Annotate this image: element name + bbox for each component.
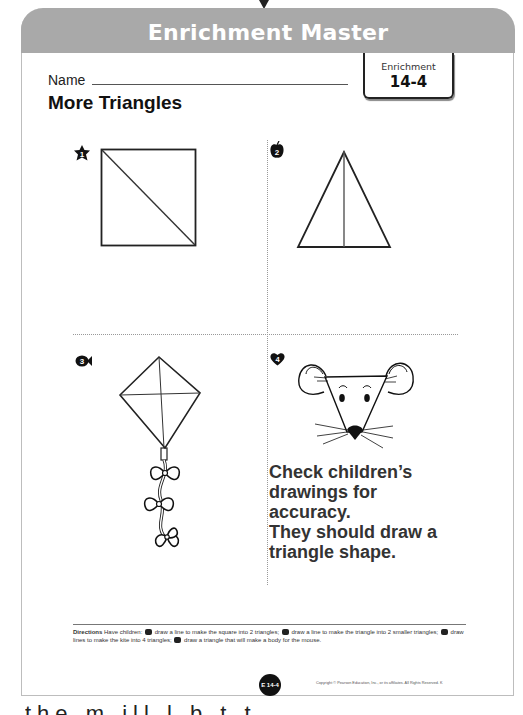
heart-number-icon: 4: [270, 352, 285, 366]
directions-part-1: Have children:: [104, 629, 142, 635]
vertical-divider: [267, 140, 268, 585]
directions-part-3: draw a line to make the triangle into 2 …: [291, 629, 438, 635]
answer-note: Check children’s drawings for accuracy. …: [269, 462, 499, 562]
lesson-badge: Enrichment 14-4: [363, 53, 454, 99]
directions-part-2: draw a line to make the square into 2 tr…: [155, 629, 279, 635]
badge-label: Enrichment: [365, 61, 452, 72]
directions-text: Directions Have children: draw a line to…: [73, 624, 466, 644]
fish-number-icon: [441, 629, 448, 635]
directions-label: Directions: [73, 629, 102, 635]
answer-line-2: drawings for: [269, 482, 499, 502]
svg-text:2: 2: [275, 148, 280, 157]
square-with-diagonal[interactable]: [100, 148, 198, 248]
cutoff-caption-text: the m ill l b t t: [25, 703, 257, 715]
kite-with-bows[interactable]: [115, 355, 205, 555]
header-bar: Enrichment Master: [21, 8, 515, 53]
answer-line-5: triangle shape.: [269, 542, 499, 562]
page-number-badge: E 14-4: [259, 674, 281, 696]
fish-number-icon: 3: [75, 355, 93, 367]
mouse-head[interactable]: [297, 352, 417, 452]
answer-line-3: accuracy.: [269, 502, 499, 522]
apple-number-icon: [282, 629, 289, 635]
svg-text:3: 3: [80, 357, 85, 366]
name-label: Name: [48, 72, 85, 88]
answer-line-1: Check children’s: [269, 462, 499, 482]
star-number-icon: [145, 629, 152, 635]
name-input-line[interactable]: [92, 84, 348, 85]
header-title: Enrichment Master: [148, 20, 389, 45]
triangle-with-median[interactable]: [296, 150, 392, 250]
apple-number-icon: 2: [270, 141, 284, 159]
star-number-icon: 1: [73, 145, 91, 161]
lesson-title: More Triangles: [48, 92, 182, 114]
directions-part-5: draw a triangle that will make a body fo…: [184, 637, 321, 643]
heart-number-icon: [174, 637, 181, 643]
copyright-notice: Copyright © Pearson Education, Inc., or …: [316, 681, 443, 685]
badge-number: 14-4: [365, 73, 452, 91]
horizontal-divider: [73, 334, 458, 335]
answer-line-4: They should draw a: [269, 522, 499, 542]
svg-text:1: 1: [80, 150, 85, 159]
